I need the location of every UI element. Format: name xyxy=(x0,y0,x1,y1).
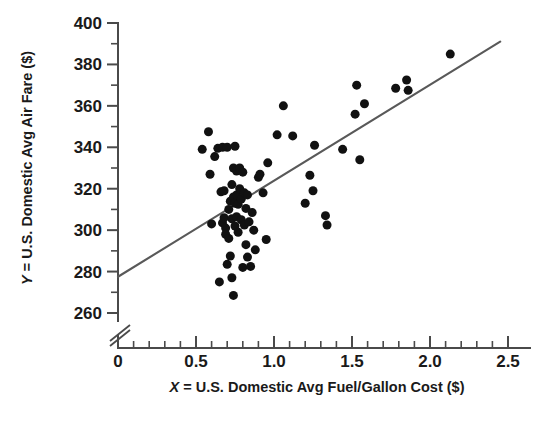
data-point xyxy=(224,234,233,243)
data-point xyxy=(259,188,268,197)
data-point xyxy=(391,84,400,93)
data-point xyxy=(204,127,213,136)
data-point xyxy=(231,142,240,151)
data-point xyxy=(226,252,235,261)
data-point xyxy=(351,110,360,119)
data-point xyxy=(206,170,215,179)
y-tick-label: 360 xyxy=(74,97,102,116)
y-tick-label: 380 xyxy=(74,55,102,74)
data-point xyxy=(251,245,260,254)
data-point xyxy=(338,145,347,154)
data-point xyxy=(255,170,264,179)
data-point xyxy=(355,155,364,164)
data-point xyxy=(402,75,411,84)
x-axis: 00.51.01.52.02.5 xyxy=(113,336,530,371)
data-point xyxy=(243,190,252,199)
data-point xyxy=(263,158,272,167)
data-point xyxy=(352,81,361,90)
data-point xyxy=(227,273,236,282)
data-point xyxy=(215,277,224,286)
data-point xyxy=(243,253,252,262)
trendline xyxy=(118,42,500,277)
data-point xyxy=(248,208,257,217)
data-point xyxy=(220,213,229,222)
data-point xyxy=(220,186,229,195)
y-tick-label: 280 xyxy=(74,263,102,282)
x-tick-label: 1.5 xyxy=(340,352,364,371)
x-tick-label: 2.0 xyxy=(418,352,442,371)
y-tick-label: 260 xyxy=(74,304,102,323)
data-point xyxy=(207,219,216,228)
data-point xyxy=(198,145,207,154)
y-axis-title: Y = U.S. Domestic Avg Air Fare ($) xyxy=(19,51,35,285)
data-point xyxy=(238,168,247,177)
y-tick-label: 320 xyxy=(74,180,102,199)
data-point xyxy=(309,186,318,195)
data-point xyxy=(223,260,232,269)
data-point xyxy=(241,240,250,249)
x-tick-label: 1.0 xyxy=(262,352,286,371)
chart-canvas: 260280300320340360380400 00.51.01.52.02.… xyxy=(0,0,554,422)
data-point xyxy=(323,220,332,229)
data-point xyxy=(249,226,258,235)
regression-line xyxy=(118,42,500,277)
data-point xyxy=(404,86,413,95)
data-point xyxy=(360,99,369,108)
data-point xyxy=(310,141,319,150)
data-point xyxy=(301,199,310,208)
x-tick-label: 0.5 xyxy=(184,352,208,371)
data-point xyxy=(262,235,271,244)
y-axis-break-icon xyxy=(110,325,130,348)
data-point xyxy=(288,131,297,140)
data-point xyxy=(321,211,330,220)
y-tick-label: 340 xyxy=(74,138,102,157)
x-axis-title: X = U.S. Domestic Avg Fuel/Gallon Cost (… xyxy=(168,379,464,395)
data-points xyxy=(198,50,455,300)
data-point xyxy=(210,152,219,161)
data-point xyxy=(223,143,232,152)
y-tick-label: 300 xyxy=(74,221,102,240)
data-point xyxy=(245,217,254,226)
data-point xyxy=(305,171,314,180)
y-tick-label: 400 xyxy=(74,14,102,33)
data-point xyxy=(227,180,236,189)
y-axis: 260280300320340360380400 xyxy=(74,14,118,323)
data-point xyxy=(273,130,282,139)
data-point xyxy=(234,228,243,237)
data-point xyxy=(279,101,288,110)
data-point xyxy=(238,263,247,272)
data-point xyxy=(446,50,455,59)
x-tick-label: 2.5 xyxy=(496,352,520,371)
data-point xyxy=(229,291,238,300)
data-point xyxy=(246,262,255,271)
scatter-plot-figure: 260280300320340360380400 00.51.01.52.02.… xyxy=(0,0,554,422)
x-tick-label: 0 xyxy=(113,352,122,371)
